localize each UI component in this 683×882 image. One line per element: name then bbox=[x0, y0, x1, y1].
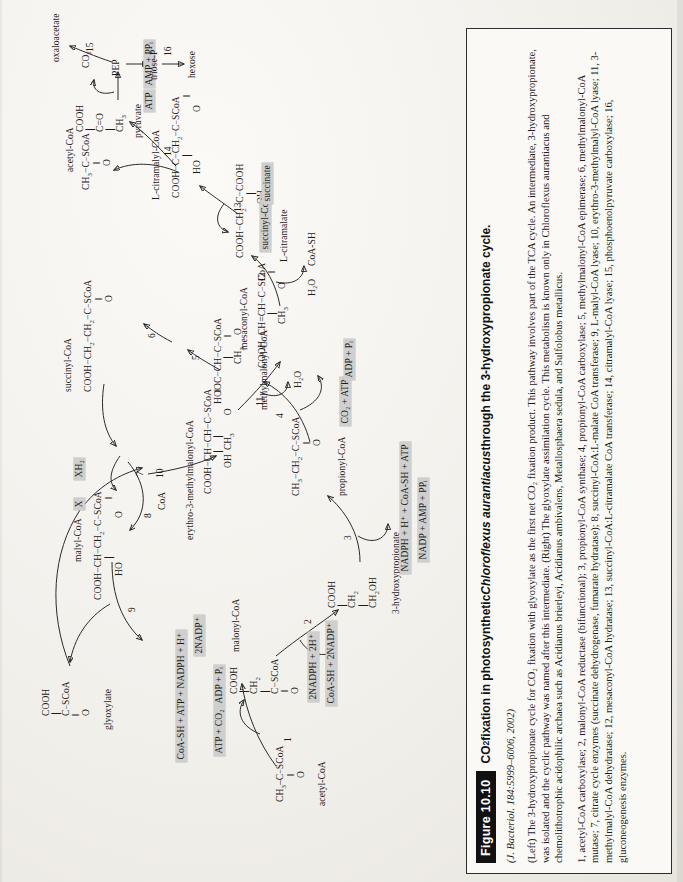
structure-malyl-coa: COOH−CH−CH2−C−SCoA ∣‖ HOO bbox=[94, 491, 125, 600]
enzyme-number-8: 8 bbox=[144, 513, 154, 518]
cofactor-x: X bbox=[74, 498, 85, 510]
cofactor-co2-atp: CO₂ + ATP bbox=[340, 377, 351, 426]
label-coash: CoA-SH bbox=[308, 232, 318, 266]
label-malyl-coa: malyl-CoA bbox=[74, 518, 84, 562]
enzyme-number-16: 16 bbox=[164, 46, 174, 56]
figure-title-post: through the 3-hydroxypropionate cycle. bbox=[479, 225, 493, 451]
label-co2: CO₂ bbox=[82, 51, 92, 68]
structure-glyoxylate: COOH∣C−SCoA‖O bbox=[42, 681, 92, 716]
label-mesaconyl-coa: mesaconyl-CoA bbox=[240, 287, 250, 350]
label-pep: PEP bbox=[112, 59, 122, 76]
enzyme-number-7: 7 bbox=[136, 471, 146, 476]
caption-source: (J. Bacteriol. 184:5999–6006, 2002) bbox=[505, 41, 516, 863]
caption-header: Figure 10.10 CO2 fixation in photosynthe… bbox=[476, 41, 496, 863]
label-oxaloacetate: oxaloacetate bbox=[52, 13, 62, 62]
cofactor-adp-pi: ADP + Pᵢ bbox=[214, 665, 225, 706]
structure-l-citramalyl-coa: COOH−C−CH2−C−SCoA ∣‖ HOO bbox=[172, 94, 203, 198]
label-coa: CoA bbox=[158, 492, 168, 510]
figure-number-badge: Figure 10.10 bbox=[476, 771, 496, 863]
structure-acetyl-coa-product: CH3−C−SCoA ‖O bbox=[82, 133, 113, 190]
structure-acetyl-coa: CH3–C−SCoA ‖ O bbox=[276, 746, 307, 802]
label-succinyl-coa: succinyl-CoA bbox=[64, 338, 74, 392]
structure-malonyl-coa: COOH∣CH2∣C−SCoA‖O bbox=[230, 658, 301, 694]
figure-title-organism: Chloroflexus aurantiacus bbox=[479, 451, 493, 595]
label-l-citramalyl-coa: L-citramalyl-CoA bbox=[152, 130, 162, 200]
enzyme-number-12: 12 bbox=[258, 272, 268, 282]
label-erythro-3-methylmalonyl-coa: erythro-3-methylmalonyl-CoA bbox=[186, 420, 196, 540]
enzyme-number-13: 13 bbox=[234, 202, 244, 212]
label-propionyl-coa: propionyl-CoA bbox=[338, 437, 348, 496]
figure-title: CO2 fixation in photosynthetic Chlorofle… bbox=[476, 225, 496, 772]
cofactor-nadp-amp-ppi: NADP + AMP + PPᵢ bbox=[418, 478, 429, 562]
cofactor-adp-pi-2: ADP + Pᵢ bbox=[344, 339, 355, 380]
scanned-page: CH3–C−SCoA ‖ O acetyl-CoA ATP + CO₂ ADP … bbox=[0, 0, 683, 882]
figure-caption-panel: Figure 10.10 CO2 fixation in photosynthe… bbox=[466, 28, 672, 874]
cofactor-2nadph-2h: 2NADPH + 2H⁺ bbox=[308, 632, 319, 702]
label-acetyl-coa-product: acetyl-CoA bbox=[66, 127, 76, 172]
label-acetyl-coa: acetyl-CoA bbox=[318, 761, 328, 806]
enzyme-number-6: 6 bbox=[148, 333, 158, 338]
cofactor-2nadp: 2NADP⁺ bbox=[194, 615, 205, 656]
enzyme-number-9: 9 bbox=[128, 607, 138, 612]
pathway-diagram: CH3–C−SCoA ‖ O acetyl-CoA ATP + CO₂ ADP … bbox=[8, 42, 463, 862]
enzyme-number-15: 15 bbox=[86, 42, 96, 52]
structure-succinyl-coa: COOH−CH2−CH2−C−SCoA ‖O bbox=[84, 280, 115, 392]
cofactor-xh2: XH₂ bbox=[74, 458, 85, 480]
structure-3-hydroxypropionate: COOH∣CH2∣CH2OH bbox=[328, 577, 380, 608]
cofactor-coash-atp-nadph: CoA-SH + ATP + NADPH + H⁺ bbox=[176, 630, 187, 762]
label-glyoxylate: glyoxylate bbox=[104, 689, 114, 730]
caption-paragraph-1: (Left) The 3-hydroxypropionate cycle for… bbox=[525, 41, 566, 863]
label-h2o-2: H₂O bbox=[308, 279, 318, 296]
caption-paragraph-2: 1, acetyl-CoA carboxylase; 2, malonyl-Co… bbox=[575, 41, 629, 863]
cofactor-coash-2nadp: CoA-SH + 2NADP⁺ bbox=[326, 621, 337, 706]
structure-erythro-3-methylmalonyl-coa: COOH−CH−CH−C−SCoA ∣∣‖ OHCH3O bbox=[204, 389, 235, 494]
label-succinate-box: succinate bbox=[262, 163, 273, 204]
label-l-citramalate: L-citramalate bbox=[280, 210, 290, 262]
cofactor-nadph-coash-atp: NADPH + H⁺ + CoA-SH + ATP bbox=[400, 442, 411, 574]
structure-pyruvate: COOH∣C=O∣CH3 bbox=[76, 105, 127, 132]
structure-propionyl-coa: CH3−CH2−C−SCoA ‖O bbox=[292, 417, 323, 496]
cofactor-atp: ATP bbox=[144, 90, 155, 112]
enzyme-number-10: 10 bbox=[156, 468, 166, 478]
cofactor-atp-co2: ATP + CO₂ bbox=[214, 707, 225, 756]
enzyme-number-4: 4 bbox=[276, 413, 286, 418]
label-malonyl-coa: malonyl-CoA bbox=[232, 599, 242, 652]
label-triose-p: triose-P bbox=[150, 50, 160, 80]
label-h2o-1: H₂O bbox=[294, 371, 304, 388]
enzyme-number-11: 11 bbox=[256, 397, 266, 406]
enzyme-number-3: 3 bbox=[344, 535, 354, 540]
pathway-diagram-container: CH3–C−SCoA ‖ O acetyl-CoA ATP + CO₂ ADP … bbox=[8, 42, 463, 862]
enzyme-number-14: 14 bbox=[164, 146, 174, 156]
enzyme-number-1: 1 bbox=[284, 737, 294, 742]
figure-title-pre: CO bbox=[479, 745, 493, 763]
figure-title-sub: 2 bbox=[481, 741, 491, 746]
label-hexose: hexose bbox=[188, 51, 198, 78]
figure-caption-panel-container: Figure 10.10 CO2 fixation in photosynthe… bbox=[466, 28, 672, 874]
label-pyruvate: pyruvate bbox=[134, 104, 144, 138]
figure-title-mid: fixation in photosynthetic bbox=[479, 595, 493, 741]
enzyme-number-2: 2 bbox=[304, 619, 314, 624]
enzyme-number-5: 5 bbox=[192, 355, 202, 360]
